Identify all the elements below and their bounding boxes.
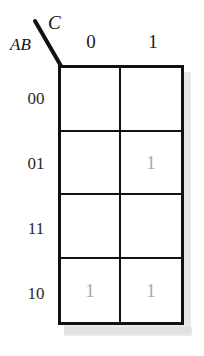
kmap-cell[interactable] [61,195,121,259]
row-header-00: 00 [18,89,54,109]
row-header-10: 10 [18,284,54,304]
kmap-cell[interactable] [61,68,121,132]
cell-value: 1 [146,281,156,300]
kmap-grid: 1 1 1 [58,65,184,325]
kmap-diagram: C AB 0 1 00 01 11 10 1 1 1 [0,0,204,356]
row-header-11: 11 [18,219,54,239]
column-header-0: 0 [71,31,111,53]
row-variable-label: AB [10,35,31,55]
column-variable-label: C [48,12,61,34]
row-header-01: 01 [18,154,54,174]
kmap-cell[interactable]: 1 [61,259,121,323]
grid-bottom-shadow [64,327,192,336]
kmap-cell[interactable] [121,195,181,259]
kmap-cell[interactable] [121,68,181,132]
cell-value: 1 [146,153,156,172]
kmap-cell[interactable] [61,132,121,196]
cell-value: 1 [85,281,95,300]
kmap-cell[interactable]: 1 [121,132,181,196]
column-header-1: 1 [133,31,173,53]
kmap-cell[interactable]: 1 [121,259,181,323]
